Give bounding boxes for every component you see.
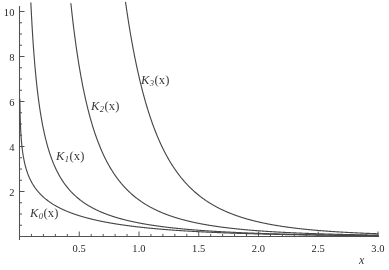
- y-tick-label: 10: [0, 6, 15, 17]
- x-tick-label: 2.5: [312, 243, 325, 254]
- y-tick-label: 2: [0, 186, 15, 197]
- x-tick-label: 1.5: [192, 243, 205, 254]
- y-tick-label: 4: [0, 141, 15, 152]
- curve-k2x: [71, 3, 378, 235]
- curve-k3x: [126, 2, 378, 233]
- figure-canvas: 0.51.01.52.02.53.0 246810 K0(x)K1(x)K2(x…: [0, 0, 389, 270]
- x-tick-label: 1.0: [132, 243, 145, 254]
- y-tick-label: 8: [0, 51, 15, 62]
- curve-label-k3: K3(x): [141, 73, 170, 88]
- x-tick-label: 0.5: [73, 243, 86, 254]
- curve-label-k2: K2(x): [91, 99, 120, 114]
- y-tick-label: 6: [0, 96, 15, 107]
- curve-k1x: [31, 3, 378, 236]
- curve-label-k0: K0(x): [30, 206, 59, 221]
- x-tick-label: 2.0: [252, 243, 265, 254]
- plot-area: [0, 0, 389, 270]
- x-tick-label: 3.0: [371, 243, 384, 254]
- x-axis-label: x: [359, 253, 364, 268]
- curve-k0x: [20, 99, 378, 236]
- axes: [19, 6, 379, 240]
- curve-label-k1: K1(x): [56, 149, 85, 164]
- curves: [20, 2, 378, 235]
